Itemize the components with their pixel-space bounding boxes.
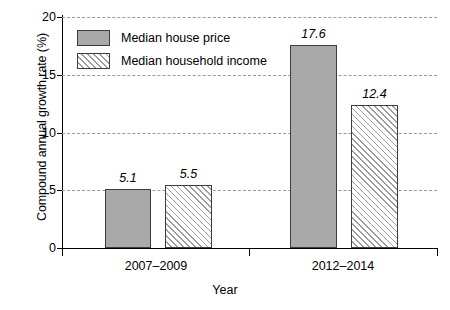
legend-swatch-hatched-icon xyxy=(77,53,110,69)
legend-swatch-solid-icon xyxy=(77,30,110,46)
y-axis-tick-labels: 20 15 10 5 0 xyxy=(28,0,56,310)
legend-item-median-house-price: Median house price xyxy=(77,27,297,48)
gridline-20 xyxy=(62,17,437,18)
legend-label-median-household-income: Median household income xyxy=(121,54,267,68)
bar-value-2012-2014-median-house-price: 17.6 xyxy=(290,27,337,41)
x-tick-mark-right xyxy=(437,249,438,256)
bar-value-2007-2009-median-house-price: 5.1 xyxy=(105,171,151,185)
y-tick-label-20: 20 xyxy=(30,10,56,24)
y-tick-label-10: 10 xyxy=(30,126,56,140)
gridline-15 xyxy=(62,75,437,76)
legend-item-median-household-income: Median household income xyxy=(77,50,297,71)
x-category-label-2007-2009: 2007–2009 xyxy=(125,259,188,273)
bar-value-2007-2009-median-household-income: 5.5 xyxy=(165,167,212,181)
bar-2007-2009-median-house-price[interactable] xyxy=(105,189,151,248)
x-tick-mark-left xyxy=(62,249,63,256)
bar-chart: Compound annual growth rate (%) 20 15 10… xyxy=(0,0,450,310)
x-axis-title: Year xyxy=(0,283,450,297)
legend-label-median-house-price: Median house price xyxy=(121,31,230,45)
legend: Median house price Median household inco… xyxy=(77,27,297,73)
bar-2012-2014-median-house-price[interactable] xyxy=(290,45,337,248)
bar-2012-2014-median-household-income[interactable] xyxy=(351,105,398,248)
bar-value-2012-2014-median-household-income: 12.4 xyxy=(351,87,398,101)
x-category-label-2012-2014: 2012–2014 xyxy=(312,259,375,273)
y-tick-label-0: 0 xyxy=(30,241,56,255)
y-tick-label-15: 15 xyxy=(30,68,56,82)
bar-2007-2009-median-household-income[interactable] xyxy=(165,185,212,249)
y-tick-label-5: 5 xyxy=(30,183,56,197)
x-tick-mark-middle xyxy=(249,249,250,256)
